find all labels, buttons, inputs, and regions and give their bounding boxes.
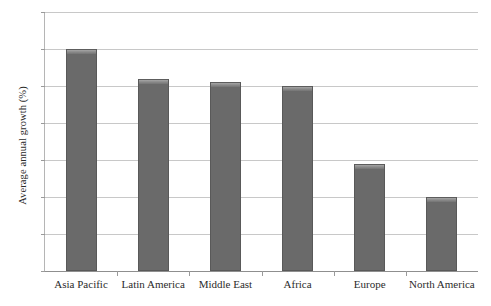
bar-top-highlight <box>211 82 240 87</box>
gridline-5 <box>45 86 478 87</box>
gridline-7 <box>45 12 478 13</box>
bar <box>354 164 385 271</box>
y-tick-mark-6 <box>41 49 45 50</box>
gridline-2 <box>45 197 478 198</box>
bar <box>282 86 313 271</box>
x-category-label: Middle East <box>189 278 261 290</box>
y-axis-title: Average annual growth (%) <box>17 46 28 246</box>
bar <box>210 82 241 271</box>
gridline-4 <box>45 123 478 124</box>
y-tick-mark-3 <box>41 160 45 161</box>
gridline-1 <box>45 234 478 235</box>
bar-top-highlight <box>283 86 312 91</box>
y-tick-mark-4 <box>41 123 45 124</box>
x-category-label: Asia Pacific <box>45 278 117 290</box>
gridline-3 <box>45 160 478 161</box>
bar-chart: Average annual growth (%) 01234567 Asia … <box>0 0 491 306</box>
bar-top-highlight <box>427 197 456 202</box>
x-tick-mark <box>334 271 335 276</box>
x-tick-mark <box>406 271 407 276</box>
plot-area <box>45 12 478 271</box>
bar <box>138 79 169 271</box>
x-category-label: Latin America <box>117 278 189 290</box>
gridline-6 <box>45 49 478 50</box>
y-tick-mark-7 <box>41 12 45 13</box>
y-axis-line <box>44 12 45 271</box>
bar-top-highlight <box>67 49 96 54</box>
x-category-label: Africa <box>262 278 334 290</box>
x-tick-mark <box>117 271 118 276</box>
bar-top-highlight <box>139 79 168 84</box>
bar <box>426 197 457 271</box>
x-tick-mark <box>189 271 190 276</box>
bar-top-highlight <box>355 164 384 169</box>
bar <box>66 49 97 271</box>
x-category-label: Europe <box>334 278 406 290</box>
y-tick-mark-5 <box>41 86 45 87</box>
y-tick-mark-1 <box>41 234 45 235</box>
x-category-label: North America <box>406 278 478 290</box>
x-tick-mark <box>262 271 263 276</box>
y-tick-mark-2 <box>41 197 45 198</box>
